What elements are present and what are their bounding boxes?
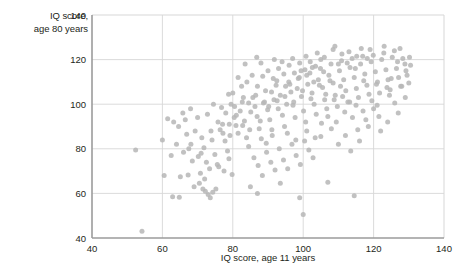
y-axis-tick-labels: 406080100120140 xyxy=(70,10,86,244)
svg-text:120: 120 xyxy=(70,54,86,65)
svg-text:140: 140 xyxy=(70,10,86,21)
scatter-plot-figure: IQ score, age 80 years 406080100120140 4… xyxy=(0,0,463,271)
svg-text:100: 100 xyxy=(70,99,86,110)
plot-canvas: 406080100120140 406080100120140 xyxy=(0,0,463,271)
svg-text:60: 60 xyxy=(75,188,86,199)
x-axis-label: IQ score, age 11 years xyxy=(92,252,444,263)
svg-text:80: 80 xyxy=(75,143,86,154)
data-points-layer xyxy=(133,44,413,234)
axis-lines xyxy=(92,15,444,238)
svg-text:40: 40 xyxy=(75,233,86,244)
